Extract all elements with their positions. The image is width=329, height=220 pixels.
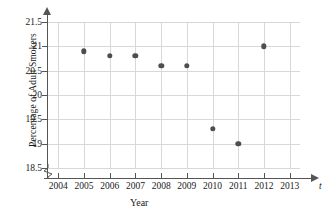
y-axis-tick-label: 20 bbox=[0, 90, 42, 100]
gridline-vertical bbox=[84, 22, 85, 168]
x-axis-tick bbox=[84, 173, 85, 179]
gridline-horizontal bbox=[48, 71, 300, 72]
y-axis-tick-label: 19.5 bbox=[0, 114, 42, 124]
gridline-vertical bbox=[290, 22, 291, 168]
y-axis-tick-label: 21.5 bbox=[0, 17, 42, 27]
gridline-vertical bbox=[58, 22, 59, 168]
gridline-vertical bbox=[110, 22, 111, 168]
gridline-vertical bbox=[213, 22, 214, 168]
y-axis-tick-label: 21 bbox=[0, 41, 42, 51]
y-axis-tick bbox=[42, 71, 48, 72]
gridline-vertical bbox=[161, 22, 162, 168]
x-axis-arrow-icon bbox=[311, 174, 319, 182]
x-axis-tick-label: 2013 bbox=[275, 181, 305, 191]
gridline-horizontal bbox=[48, 168, 300, 169]
gridline-horizontal bbox=[48, 95, 300, 96]
x-axis-tick bbox=[238, 173, 239, 179]
y-axis-tick-label: 18.5 bbox=[0, 163, 42, 173]
x-axis-tick bbox=[135, 173, 136, 179]
x-axis-tick bbox=[264, 173, 265, 179]
chart-figure: Percentage of Adult Smokers Year t 18.51… bbox=[0, 0, 329, 220]
x-axis-tick bbox=[161, 173, 162, 179]
x-axis-tick bbox=[213, 173, 214, 179]
gridline-horizontal bbox=[48, 119, 300, 120]
gridline-vertical bbox=[135, 22, 136, 168]
y-axis-tick-label: 19 bbox=[0, 139, 42, 149]
x-axis-caption: Year bbox=[130, 197, 148, 208]
x-axis-tick bbox=[58, 173, 59, 179]
gridline-vertical bbox=[187, 22, 188, 168]
x-axis-variable-symbol: t bbox=[319, 181, 322, 191]
y-axis-tick bbox=[42, 95, 48, 96]
axis-break-icon bbox=[42, 164, 54, 178]
x-axis-tick bbox=[110, 173, 111, 179]
y-axis-tick bbox=[42, 168, 48, 169]
x-axis-tick bbox=[290, 173, 291, 179]
y-axis-tick bbox=[42, 119, 48, 120]
x-axis-tick bbox=[187, 173, 188, 179]
y-axis-tick bbox=[42, 22, 48, 23]
y-axis-tick bbox=[42, 144, 48, 145]
gridline-vertical bbox=[238, 22, 239, 168]
y-axis-tick bbox=[42, 46, 48, 47]
gridline-horizontal bbox=[48, 144, 300, 145]
y-axis-arrow-icon bbox=[43, 7, 51, 15]
y-axis-line bbox=[47, 14, 48, 178]
y-axis-tick-label: 20.5 bbox=[0, 66, 42, 76]
gridline-horizontal bbox=[48, 22, 300, 23]
